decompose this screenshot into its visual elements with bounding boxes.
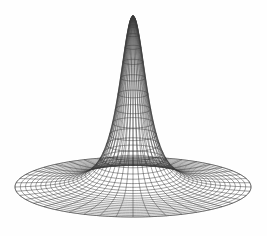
mesh-face bbox=[133, 183, 140, 187]
wireframe-surface-canvas bbox=[0, 0, 267, 236]
surface-plot-figure bbox=[0, 0, 267, 236]
mesh-face bbox=[127, 174, 133, 179]
mesh-face bbox=[133, 193, 142, 196]
mesh-face bbox=[125, 190, 133, 193]
mesh-face bbox=[126, 183, 133, 187]
mesh-face bbox=[128, 168, 133, 174]
mesh-face bbox=[124, 193, 133, 196]
mesh-face bbox=[127, 179, 133, 183]
mesh-face bbox=[133, 187, 140, 190]
mesh-face bbox=[133, 174, 139, 179]
mesh-face bbox=[133, 179, 139, 183]
mesh-face bbox=[126, 187, 133, 190]
mesh-face bbox=[133, 168, 138, 174]
mesh-face bbox=[133, 190, 141, 193]
